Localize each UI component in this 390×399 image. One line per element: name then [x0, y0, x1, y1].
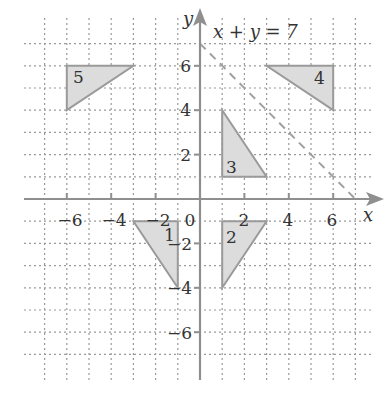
x-tick-labels: −6 −4 −2 2 4 6 — [57, 210, 337, 230]
x-axis-label: x — [363, 204, 373, 225]
y-tick-label: 2 — [180, 145, 191, 165]
triangle-label-1: 1 — [164, 225, 175, 245]
origin-label: 0 — [185, 210, 196, 230]
y-axis-label: y — [182, 8, 194, 29]
y-tick-label: 4 — [180, 100, 191, 120]
x-tick-label: −6 — [57, 210, 82, 230]
x-tick-label: 4 — [283, 210, 294, 230]
y-tick-label: 6 — [180, 56, 191, 76]
x-tick-label: 6 — [327, 210, 338, 230]
x-tick-label: 2 — [239, 210, 250, 230]
y-tick-label: −6 — [167, 323, 192, 343]
triangle-label-4: 4 — [314, 68, 325, 88]
x-tick-label: −4 — [101, 210, 126, 230]
triangle-label-2: 2 — [226, 227, 237, 247]
coordinate-grid-figure: −6 −4 −2 2 4 6 6 4 2 −2 −4 −6 0 y x x + … — [0, 0, 390, 399]
triangle-label-3: 3 — [226, 157, 237, 177]
triangle-label-5: 5 — [73, 67, 84, 87]
line-equation-label: x + y = 7 — [213, 21, 298, 42]
y-tick-label: −4 — [167, 278, 192, 298]
